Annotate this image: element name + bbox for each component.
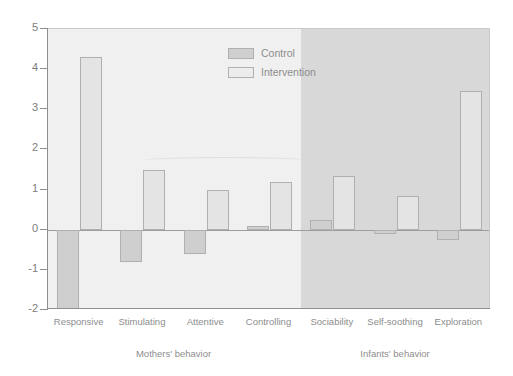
- y-tick-label: 2: [18, 142, 38, 153]
- y-tick-label: -2: [18, 303, 38, 314]
- bar-chart: 543210-1-2 ResponsiveStimulatingAttentiv…: [0, 0, 513, 376]
- legend-label-control: Control: [261, 48, 295, 59]
- bar-self-soothing-control: [374, 230, 396, 234]
- zero-baseline: [48, 230, 489, 231]
- bar-responsive-control: [57, 230, 79, 309]
- bar-stimulating-control: [120, 230, 142, 262]
- y-tick-mark: [40, 68, 48, 69]
- legend-swatch-intervention-icon: [228, 67, 254, 78]
- scan-artifact: [143, 157, 308, 164]
- x-tick-label: Sociability: [300, 316, 363, 327]
- x-tick-label: Responsive: [47, 316, 110, 327]
- y-tick-label: 3: [18, 102, 38, 113]
- x-tick-label: Self-soothing: [363, 316, 426, 327]
- y-tick-label: -1: [18, 263, 38, 274]
- bar-sociability-intervention: [333, 176, 355, 230]
- bar-responsive-intervention: [80, 57, 102, 230]
- axis-group-label: Infants' behavior: [300, 348, 490, 359]
- axis-group-label: Mothers' behavior: [47, 348, 300, 359]
- y-tick-label: 5: [18, 22, 38, 33]
- bar-controlling-intervention: [270, 182, 292, 230]
- bar-exploration-intervention: [460, 91, 482, 229]
- x-tick-label: Controlling: [237, 316, 300, 327]
- y-tick-label: 4: [18, 62, 38, 73]
- legend-item-intervention: Intervention: [228, 64, 316, 80]
- legend-item-control: Control: [228, 45, 316, 61]
- bar-sociability-control: [310, 220, 332, 230]
- y-tick-mark: [40, 148, 48, 149]
- y-axis: [47, 28, 48, 309]
- x-axis: [47, 308, 490, 309]
- bar-stimulating-intervention: [143, 170, 165, 230]
- bar-exploration-control: [437, 230, 459, 240]
- y-tick-mark: [40, 269, 48, 270]
- legend-label-intervention: Intervention: [261, 67, 316, 78]
- legend-swatch-control-icon: [228, 48, 254, 59]
- y-tick-mark: [40, 309, 48, 310]
- x-tick-label: Stimulating: [110, 316, 173, 327]
- y-tick-mark: [40, 108, 48, 109]
- y-tick-label: 0: [18, 223, 38, 234]
- legend: Control Intervention: [228, 45, 316, 83]
- x-tick-label: Attentive: [174, 316, 237, 327]
- bar-attentive-intervention: [207, 190, 229, 230]
- x-tick-label: Exploration: [427, 316, 490, 327]
- bar-self-soothing-intervention: [397, 196, 419, 230]
- bar-controlling-control: [247, 226, 269, 230]
- y-tick-mark: [40, 229, 48, 230]
- bar-attentive-control: [184, 230, 206, 254]
- y-tick-mark: [40, 28, 48, 29]
- y-tick-mark: [40, 189, 48, 190]
- y-tick-label: 1: [18, 183, 38, 194]
